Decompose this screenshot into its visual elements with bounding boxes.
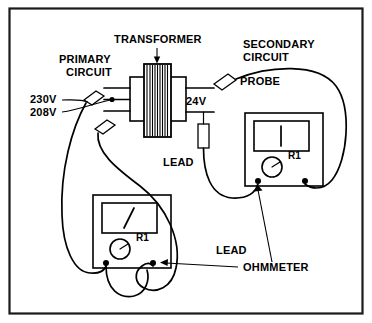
primary-circuit-label-line1: PRIMARY [59,53,111,65]
diagram-page: TRANSFORMER PRIMARY CIRCUIT 230V 208V [0,0,372,323]
secondary-circuit-label-line2: CIRCUIT [243,51,289,63]
ohmmeter-upper-terminal-right [302,178,308,184]
voltage-24-label: 24V [186,95,207,107]
secondary-circuit-label-line1: SECONDARY [243,38,315,50]
ohmmeter-upper-range-label: R1 [288,150,301,161]
ohmmeter-label: OHMMETER [243,261,309,273]
lead-label-primary: LEAD [216,244,247,256]
clip-body-secondary-lower [198,124,209,148]
probe-label: PROBE [240,75,280,87]
circuit-diagram: TRANSFORMER PRIMARY CIRCUIT 230V 208V [0,0,372,323]
lead-label-secondary: LEAD [163,156,194,168]
voltage-208-label: 208V [30,106,57,118]
transformer-label: TRANSFORMER [114,33,202,45]
ohmmeter-upper: R1 [245,113,323,186]
voltage-230-label: 230V [30,93,57,105]
ohmmeter-lower-terminal-left [103,260,109,266]
primary-junction-dot [109,97,114,102]
ohmmeter-upper-terminal-left [255,178,261,184]
primary-circuit-label-line2: CIRCUIT [66,66,112,78]
ohmmeter-lower-range-label: R1 [136,232,149,243]
